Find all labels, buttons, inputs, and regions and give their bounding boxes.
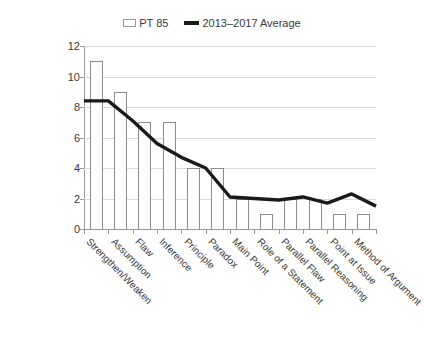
x-tick-mark bbox=[254, 229, 255, 234]
chart-container: PT 85 2013–2017 Average 024681012 Streng… bbox=[0, 0, 424, 344]
x-tick-mark bbox=[206, 229, 207, 234]
y-tick-label: 2 bbox=[56, 193, 80, 205]
line-swatch-icon bbox=[184, 21, 199, 25]
y-axis-tick-labels: 024681012 bbox=[56, 46, 80, 229]
x-tick-mark bbox=[279, 229, 280, 234]
average-line-series bbox=[84, 46, 376, 230]
x-tick-mark bbox=[108, 229, 109, 234]
y-tick-label: 12 bbox=[56, 40, 80, 52]
y-tick-label: 4 bbox=[56, 162, 80, 174]
x-tick-mark bbox=[352, 229, 353, 234]
x-tick-mark bbox=[133, 229, 134, 234]
legend-entry-average: 2013–2017 Average bbox=[184, 17, 300, 29]
y-tick-mark bbox=[80, 138, 84, 139]
y-tick-label: 6 bbox=[56, 132, 80, 144]
legend-entry-pt85: PT 85 bbox=[123, 17, 168, 29]
y-tick-mark bbox=[80, 46, 84, 47]
chart-legend: PT 85 2013–2017 Average bbox=[0, 17, 424, 29]
y-tick-mark bbox=[80, 168, 84, 169]
x-tick-mark bbox=[327, 229, 328, 234]
bar-swatch-icon bbox=[123, 19, 136, 27]
y-tick-label: 10 bbox=[56, 71, 80, 83]
y-tick-mark bbox=[80, 77, 84, 78]
x-tick-mark bbox=[84, 229, 85, 234]
legend-label-pt85: PT 85 bbox=[139, 17, 168, 29]
x-tick-mark bbox=[181, 229, 182, 234]
y-tick-label: 0 bbox=[56, 223, 80, 235]
y-tick-mark bbox=[80, 107, 84, 108]
y-tick-mark bbox=[80, 199, 84, 200]
y-tick-label: 8 bbox=[56, 101, 80, 113]
legend-label-average: 2013–2017 Average bbox=[202, 17, 300, 29]
x-tick-mark bbox=[230, 229, 231, 234]
x-tick-mark bbox=[303, 229, 304, 234]
x-tick-mark bbox=[376, 229, 377, 234]
average-line-path bbox=[84, 101, 376, 206]
x-tick-mark bbox=[157, 229, 158, 234]
